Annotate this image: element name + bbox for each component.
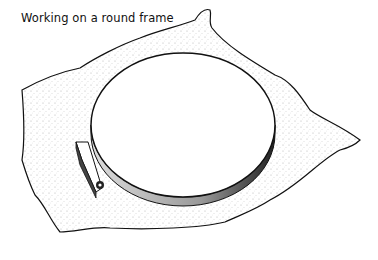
hoop-top	[91, 53, 275, 197]
embroidery-hoop-illustration	[0, 0, 378, 260]
